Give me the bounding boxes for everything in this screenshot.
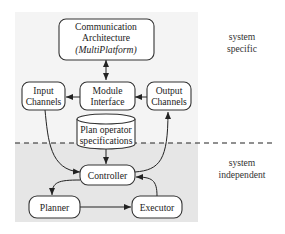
node-input-channels: Input Channels [22,82,65,110]
node-planner: Planner [29,196,80,218]
communication-line3: (MultiPlatform) [75,44,136,56]
node-plan-operator-specifications: Plan operator specifications [77,114,135,149]
node-controller: Controller [80,165,135,185]
output-channels-line1: Output [156,85,183,96]
plan-operator-line1: Plan operator [80,124,132,135]
system-specific-label-line2: specific [227,43,257,54]
system-specific-label-line1: system [229,31,256,42]
plan-operator-line2: specifications [80,135,133,146]
node-module-interface: Module Interface [80,82,135,110]
communication-line1: Communication [75,21,137,32]
system-independent-label-line1: system [229,157,256,168]
controller-label: Controller [88,170,128,181]
planner-label: Planner [40,202,70,213]
node-communication-architecture: Communication Architecture (MultiPlatfor… [59,19,154,60]
communication-line2: Architecture [82,32,130,43]
node-output-channels: Output Channels [147,82,191,110]
node-executor: Executor [132,196,182,218]
architecture-diagram: Communication Architecture (MultiPlatfor… [0,0,285,234]
module-interface-line1: Module [93,85,123,96]
executor-label: Executor [140,202,175,213]
output-channels-line2: Channels [151,96,187,107]
system-independent-label-line2: independent [219,169,266,180]
module-interface-line2: Interface [90,96,124,107]
input-channels-line1: Input [33,85,54,96]
input-channels-line2: Channels [26,96,62,107]
